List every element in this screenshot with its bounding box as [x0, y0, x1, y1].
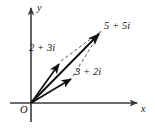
vector-addend-a-label: 2 + 3i	[29, 43, 55, 54]
origin-label: O	[20, 105, 28, 116]
dashed-parallel-to-addend-b	[61, 32, 100, 61]
vector-sum-label: 5 + 5i	[104, 21, 130, 32]
vector-addend-b-label: 3 + 2i	[75, 67, 101, 78]
x-axis-label: x	[141, 104, 145, 114]
vector-addend-a	[31, 64, 59, 103]
complex-plane-vector-diagram: 5 + 5i 2 + 3i 3 + 2i x y O	[0, 0, 155, 130]
y-axis-label: y	[37, 3, 41, 13]
